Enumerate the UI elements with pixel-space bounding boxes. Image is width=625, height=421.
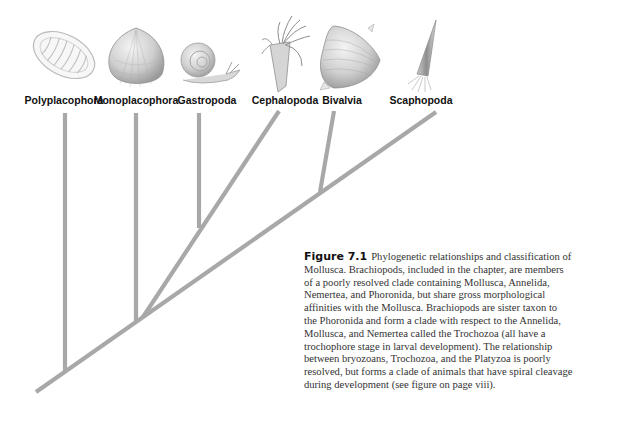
snail-icon — [181, 43, 240, 83]
taxon-label-gastropoda: Gastropoda — [178, 94, 237, 106]
taxon-label-cephalopoda: Cephalopoda — [252, 94, 319, 106]
caption-line: affinities with the Mollusca. Brachiopod… — [304, 302, 624, 315]
branch-cephalopoda — [143, 111, 279, 317]
caption-line: the Phoronida and form a clade with resp… — [304, 315, 624, 328]
caption-line: between bryozoans, Trochozoa, and the Pl… — [304, 353, 624, 366]
clam-shell-icon — [320, 24, 380, 90]
branch-bivalvia — [320, 111, 334, 192]
tusk-shell-icon — [408, 20, 436, 92]
figure-number: Figure 7.1 — [304, 250, 367, 263]
taxon-label-polyplacophora: Polyplacophora — [25, 94, 104, 106]
caption-line: Figure 7.1Phylogenetic relationships and… — [304, 251, 624, 264]
figure-caption: Figure 7.1Phylogenetic relationships and… — [304, 251, 624, 392]
caption-line: Mollusca, and Nemertea called the Trocho… — [304, 328, 624, 341]
chiton-shell-icon — [25, 22, 102, 88]
taxon-label-scaphopoda: Scaphopoda — [389, 94, 452, 106]
caption-line: trochophore stage in larval development)… — [304, 341, 624, 354]
taxon-label-monoplacophora: Monoplacophora — [94, 94, 179, 106]
caption-line: Nemertea, and Phoronida, but share gross… — [304, 289, 624, 302]
caption-line: Mollusca. Brachiopods, included in the c… — [304, 264, 624, 277]
limpet-shell-icon — [109, 28, 164, 87]
taxon-label-bivalvia: Bivalvia — [322, 94, 362, 106]
caption-line: of a poorly resolved clade containing Mo… — [304, 277, 624, 290]
caption-line: resolved, but forms a clade of animals t… — [304, 366, 624, 379]
caption-line: during development (see figure on page v… — [304, 379, 624, 392]
squid-icon — [262, 16, 310, 92]
